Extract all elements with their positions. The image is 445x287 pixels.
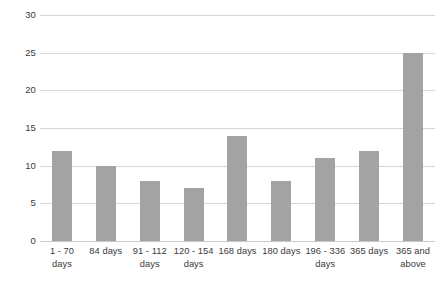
bars-layer — [40, 15, 435, 241]
bar[interactable] — [227, 136, 247, 241]
bar-slot — [216, 15, 260, 241]
y-axis: 051015202530 — [0, 0, 36, 287]
y-axis-tick-label: 15 — [2, 123, 36, 133]
bar-slot — [303, 15, 347, 241]
bar-slot — [84, 15, 128, 241]
bar-slot — [172, 15, 216, 241]
bar[interactable] — [359, 151, 379, 241]
bar[interactable] — [140, 181, 160, 241]
bar[interactable] — [52, 151, 72, 241]
x-axis-category-label: 84 days — [84, 245, 128, 258]
x-axis-category-label: 91 - 112 days — [128, 245, 172, 270]
bar-slot — [128, 15, 172, 241]
x-axis-category-label: 196 - 336 days — [303, 245, 347, 270]
bar[interactable] — [96, 166, 116, 241]
x-axis-category-label: 365 days — [347, 245, 391, 258]
y-axis-tick-label: 0 — [2, 236, 36, 246]
bar-slot — [259, 15, 303, 241]
bar-slot — [391, 15, 435, 241]
bar[interactable] — [403, 53, 423, 241]
x-axis-category-label: 180 days — [259, 245, 303, 258]
gridline — [40, 241, 435, 242]
bar[interactable] — [271, 181, 291, 241]
y-axis-tick-label: 25 — [2, 48, 36, 58]
x-axis-category-label: 168 days — [216, 245, 260, 258]
bar-chart: 051015202530 1 - 70 days84 days91 - 112 … — [0, 0, 445, 287]
bar-slot — [347, 15, 391, 241]
x-axis-labels: 1 - 70 days84 days91 - 112 days120 - 154… — [40, 245, 435, 287]
x-axis-category-label: 1 - 70 days — [40, 245, 84, 270]
y-axis-tick-label: 10 — [2, 161, 36, 171]
y-axis-tick-label: 30 — [2, 10, 36, 20]
y-axis-tick-label: 20 — [2, 85, 36, 95]
x-axis-category-label: 120 - 154 days — [172, 245, 216, 270]
x-axis-category-label: 365 and above — [391, 245, 435, 270]
bar-slot — [40, 15, 84, 241]
bar[interactable] — [315, 158, 335, 241]
y-axis-tick-label: 5 — [2, 198, 36, 208]
bar[interactable] — [184, 188, 204, 241]
